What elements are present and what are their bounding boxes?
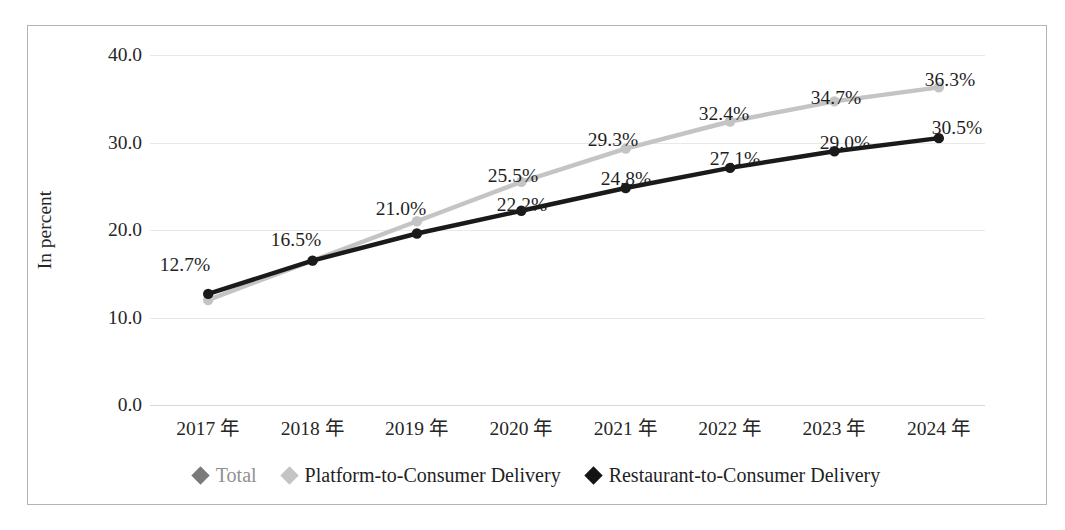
data-labels-layer: 12.7%16.5%21.0%25.5%22.2%29.3%24.8%32.4%… — [0, 0, 1065, 530]
data-point-label: 22.2% — [497, 194, 547, 216]
data-point-label: 36.3% — [925, 69, 975, 91]
data-point-label: 30.5% — [932, 117, 982, 139]
data-point-label: 27.1% — [710, 148, 760, 170]
data-point-label: 12.7% — [160, 254, 210, 276]
legend-item[interactable]: Platform-to-Consumer Delivery — [283, 464, 561, 487]
data-point-label: 29.3% — [588, 129, 638, 151]
data-point-label: 21.0% — [376, 198, 426, 220]
legend-item-label: Total — [216, 464, 257, 487]
chart-screenshot: 0.010.020.030.040.0 In percent 2017 年201… — [0, 0, 1065, 530]
legend-diamond-icon — [280, 466, 298, 484]
data-point-label: 24.8% — [601, 168, 651, 190]
legend-item-label: Restaurant-to-Consumer Delivery — [609, 464, 881, 487]
legend-diamond-icon — [191, 466, 209, 484]
legend-item-label: Platform-to-Consumer Delivery — [305, 464, 561, 487]
data-point-label: 29.0% — [820, 132, 870, 154]
data-point-label: 25.5% — [488, 165, 538, 187]
data-point-label: 32.4% — [699, 103, 749, 125]
legend-item[interactable]: Restaurant-to-Consumer Delivery — [587, 464, 881, 487]
chart-legend: TotalPlatform-to-Consumer DeliveryRestau… — [27, 455, 1047, 495]
legend-diamond-icon — [584, 466, 602, 484]
data-point-label: 34.7% — [811, 87, 861, 109]
legend-item[interactable]: Total — [194, 464, 257, 487]
data-point-label: 16.5% — [271, 229, 321, 251]
